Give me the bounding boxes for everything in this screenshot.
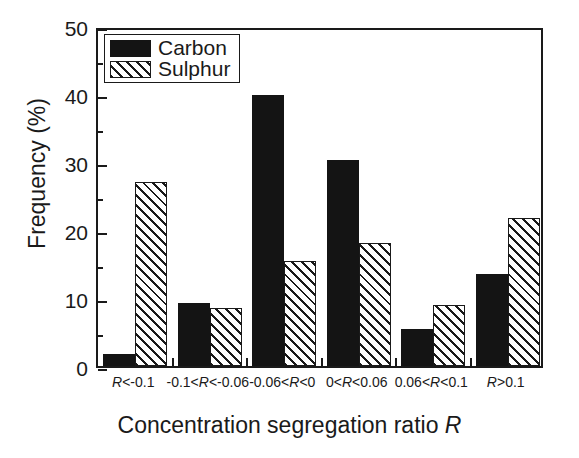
y-tick-minor [98,63,103,65]
x-axis-title: Concentration segregation ratio R [0,412,579,439]
legend-label-carbon: Carbon [158,38,227,58]
bar-carbon-5 [476,274,508,366]
bar-carbon-0 [103,354,135,366]
y-tick-major [98,233,107,235]
y-tick-minor [98,335,103,337]
bar-sulphur-3 [359,243,391,366]
y-tick-major [98,369,107,371]
chart-legend: Carbon Sulphur [104,34,240,83]
bar-sulphur-1 [210,308,242,366]
x-tick-label: 0.06<R<0.1 [395,374,468,390]
y-tick-label: 50 [65,18,88,39]
x-axis-tick-labels: R<-0.1-0.1<R<-0.06-0.06<R<00<R<0.060.06<… [96,374,543,400]
y-tick-major [98,29,107,31]
bar-sulphur-2 [284,261,316,366]
x-tick [172,358,174,366]
y-tick-label: 10 [65,290,88,311]
x-tick [321,358,323,366]
y-tick-minor [98,199,103,201]
legend-swatch-carbon-icon [110,40,151,57]
legend-item-sulphur: Sulphur [110,59,230,79]
legend-swatch-sulphur-icon [110,61,151,78]
y-tick-label: 0 [76,358,88,379]
x-tick-label: -0.06<R<0 [249,374,315,390]
legend-label-sulphur: Sulphur [158,59,230,79]
x-axis-title-text: Concentration segregation ratio [118,412,445,438]
y-axis-tick-labels: 01020304050 [48,28,88,368]
plot-area: Carbon Sulphur [96,28,543,368]
x-tick [470,358,472,366]
bar-carbon-2 [252,95,284,366]
bar-sulphur-0 [135,182,167,366]
y-tick-major [98,301,107,303]
bar-carbon-3 [327,160,359,366]
y-tick-label: 30 [65,154,88,175]
bar-sulphur-4 [433,305,465,366]
x-tick-label: -0.1<R<-0.06 [166,374,249,390]
legend-item-carbon: Carbon [110,38,230,58]
x-tick-label: R>0.1 [487,374,525,390]
bar-carbon-4 [401,329,433,366]
x-tick [246,358,248,366]
y-axis-title: Frequency (%) [24,54,51,294]
bar-carbon-1 [178,303,210,366]
chart-figure: Frequency (%) 01020304050 Carbon Sulphur… [0,0,579,458]
y-tick-label: 20 [65,222,88,243]
x-tick-label: R<-0.1 [112,374,154,390]
y-tick-major [98,97,107,99]
y-tick-major [98,165,107,167]
x-tick [395,358,397,366]
y-tick-label: 40 [65,86,88,107]
x-tick-label: 0<R<0.06 [326,374,388,390]
y-tick-minor [98,267,103,269]
y-tick-minor [98,131,103,133]
x-axis-title-symbol: R [445,412,462,438]
bar-sulphur-5 [508,218,540,366]
